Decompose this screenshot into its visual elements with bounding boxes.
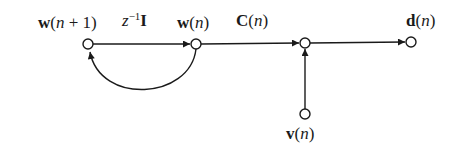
label-w-n: w(n): [177, 14, 209, 31]
node-w: [191, 39, 201, 49]
signal-flow-diagram: w(n + 1) z−1I w(n) C(n) d(n) v(n): [0, 0, 462, 154]
feedback-arc: [90, 49, 196, 90]
label-part: ): [203, 13, 209, 32]
label-part: w: [38, 13, 50, 32]
label-z-inverse-I: z−1I: [122, 12, 147, 29]
label-part: v: [286, 124, 295, 143]
label-part: ): [262, 11, 268, 30]
label-part: C: [236, 11, 248, 30]
node-w-next: [83, 39, 93, 49]
node-v: [300, 109, 310, 119]
label-part: z: [122, 11, 129, 30]
label-C-n: C(n): [236, 12, 268, 29]
label-part: n: [421, 11, 430, 30]
label-part: n: [300, 124, 309, 143]
label-d-n: d(n): [406, 12, 435, 29]
label-part: −1: [129, 10, 141, 22]
label-part: ): [309, 124, 315, 143]
edge-w-to-sum: [201, 43, 299, 44]
node-d: [406, 37, 416, 47]
label-part: I: [140, 11, 147, 30]
label-part: ): [430, 11, 436, 30]
label-v-n: v(n): [286, 125, 314, 142]
node-sum: [300, 38, 310, 48]
edge-sum-to-d: [310, 42, 405, 43]
label-part: w: [177, 13, 189, 32]
label-w-n-plus-1: w(n + 1): [38, 14, 97, 31]
label-part: + 1): [64, 13, 96, 32]
